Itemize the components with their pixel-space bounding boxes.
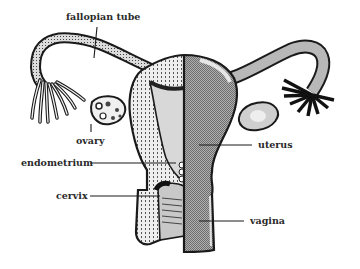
left-ovary	[91, 96, 125, 124]
label-fallopian-tube: fallopian tube	[66, 12, 140, 22]
label-vagina: vagina	[250, 216, 285, 226]
label-cervix: cervix	[56, 191, 88, 201]
right-ovary	[239, 102, 278, 130]
anatomy-illustration	[0, 0, 360, 269]
label-uterus: uterus	[258, 140, 293, 150]
label-endometrium: endometrium	[21, 158, 93, 168]
label-ovary: ovary	[76, 136, 105, 146]
uterus-left-section	[130, 55, 186, 244]
reproductive-system-diagram: fallopian tube ovary endometrium cervix …	[0, 0, 360, 269]
uterus-right-external	[184, 55, 237, 252]
